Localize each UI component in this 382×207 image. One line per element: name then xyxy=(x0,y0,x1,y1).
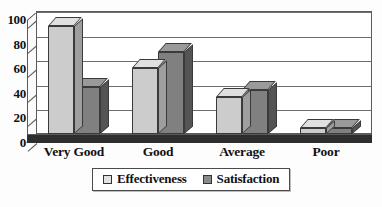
y-axis-tick-label: 60 xyxy=(14,61,26,77)
legend-label-satisfaction: Satisfaction xyxy=(217,171,280,187)
bar-front-face xyxy=(216,97,242,134)
y-axis-tick-label: 80 xyxy=(14,37,26,53)
bar-good-effectiveness xyxy=(132,68,158,134)
legend-item-satisfaction: Satisfaction xyxy=(203,171,280,187)
bar-series-container xyxy=(27,11,372,143)
bar-side-face xyxy=(268,82,277,134)
x-axis-label-good: Good xyxy=(143,144,174,160)
bar-chart-figure: 020406080100 Very GoodGoodAveragePoor Ef… xyxy=(0,0,382,207)
x-axis-label-average: Average xyxy=(219,144,265,160)
bar-side-face xyxy=(100,79,109,134)
x-axis-label-very-good: Very Good xyxy=(44,144,104,160)
y-axis-tick-label: 40 xyxy=(14,86,26,102)
bar-poor-effectiveness xyxy=(300,128,326,134)
bar-side-face xyxy=(74,18,83,134)
bar-side-face xyxy=(158,60,167,134)
legend-swatch-satisfaction-icon xyxy=(203,175,212,184)
bar-average-effectiveness xyxy=(216,97,242,134)
legend-item-effectiveness: Effectiveness xyxy=(103,171,187,187)
figure-caption xyxy=(4,200,378,207)
x-axis-label-poor: Poor xyxy=(313,144,340,160)
legend-swatch-effectiveness-icon xyxy=(103,175,112,184)
y-axis-tick-label: 20 xyxy=(14,110,26,126)
bar-front-face xyxy=(132,68,158,134)
y-axis: 020406080100 xyxy=(0,0,26,207)
y-axis-tick-label: 0 xyxy=(20,135,26,151)
chart-legend: Effectiveness Satisfaction xyxy=(92,168,290,191)
bar-front-face xyxy=(300,128,326,134)
y-axis-tick-label: 100 xyxy=(7,12,26,28)
bar-side-face xyxy=(184,44,193,134)
legend-label-effectiveness: Effectiveness xyxy=(117,171,187,187)
bar-very-good-effectiveness xyxy=(48,26,74,134)
x-axis-category-labels: Very GoodGoodAveragePoor xyxy=(27,144,372,162)
bar-front-face xyxy=(48,26,74,134)
